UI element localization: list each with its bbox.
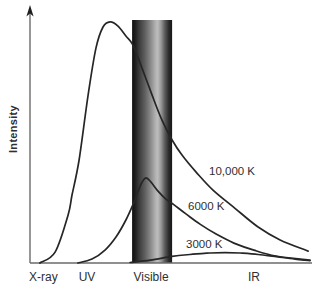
x-axis-label-visible: Visible <box>133 270 168 284</box>
x-axis-label-uv: UV <box>79 270 96 284</box>
curve-label-3000k: 3000 K <box>186 238 223 250</box>
curve-10000k <box>40 22 308 263</box>
curve-label-6000k: 6000 K <box>188 200 225 212</box>
curve-6000k <box>78 178 310 263</box>
spectrum-chart: Intensity 10,000 K 6000 K 3000 K X-ray U… <box>0 0 322 286</box>
blackbody-spectrum-figure: Intensity 10,000 K 6000 K 3000 K X-ray U… <box>0 0 322 286</box>
x-axis-label-xray: X-ray <box>29 270 58 284</box>
curve-label-10000k: 10,000 K <box>209 165 255 177</box>
x-axis-label-ir: IR <box>248 270 260 284</box>
y-axis-label: Intensity <box>7 104 19 153</box>
